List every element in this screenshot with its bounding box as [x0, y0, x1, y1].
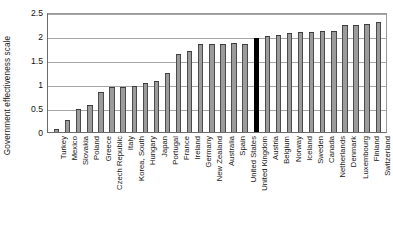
plot-area — [47, 13, 387, 133]
bar-series — [48, 14, 386, 132]
y-axis-tick-label: 2.5 — [31, 8, 43, 18]
bar — [54, 129, 59, 132]
bar-slot — [351, 14, 362, 132]
bar-slot — [295, 14, 306, 132]
x-axis-tick-label: Switzerland — [383, 136, 392, 176]
y-axis-tick-label: 1 — [38, 80, 43, 90]
bar-slot — [195, 14, 206, 132]
bar — [287, 33, 292, 132]
y-axis-tick-label: 1.5 — [31, 56, 43, 66]
x-label-slot: Greece — [95, 134, 106, 242]
x-label-slot: Italy — [117, 134, 128, 242]
bar — [198, 44, 203, 132]
x-label-slot: United Kingdom — [251, 134, 262, 242]
bar-slot — [262, 14, 273, 132]
bar — [76, 109, 81, 132]
y-axis-title: Government effectiveness scale — [0, 0, 16, 190]
bar — [309, 32, 314, 132]
bar — [265, 36, 270, 132]
bar — [165, 73, 170, 132]
x-label-slot: Canada — [318, 134, 329, 242]
x-label-slot: Norway — [285, 134, 296, 242]
bar — [132, 86, 137, 132]
bar-slot — [184, 14, 195, 132]
x-label-slot: Luxembourg — [352, 134, 363, 242]
y-axis-tick-labels: 00.511.522.5 — [16, 0, 46, 145]
bar — [276, 35, 281, 132]
bar-slot — [206, 14, 217, 132]
x-label-slot: Czech Republic — [106, 134, 117, 242]
bar — [187, 51, 192, 132]
bar-slot — [273, 14, 284, 132]
bar — [353, 25, 358, 132]
bar-slot — [140, 14, 151, 132]
bar — [364, 24, 369, 132]
x-label-slot: Belgium — [273, 134, 284, 242]
y-axis-tick-label: 0 — [38, 128, 43, 138]
bar-slot — [129, 14, 140, 132]
bar-slot — [84, 14, 95, 132]
bar-slot — [62, 14, 73, 132]
y-axis-title-text: Government effectiveness scale — [4, 35, 13, 154]
x-label-slot: New Zealand — [206, 134, 217, 242]
bar-slot — [73, 14, 84, 132]
x-label-slot: Austria — [262, 134, 273, 242]
x-label-slot: Sweden — [307, 134, 318, 242]
x-label-slot: Australia — [218, 134, 229, 242]
bar-slot — [151, 14, 162, 132]
x-label-slot: Poland — [84, 134, 95, 242]
bar — [298, 32, 303, 132]
bar — [320, 31, 325, 132]
bar — [176, 54, 181, 132]
bar-slot — [229, 14, 240, 132]
government-effectiveness-bar-chart: Government effectiveness scale 00.511.52… — [0, 0, 393, 243]
x-axis-tick-labels: TurkeyMexicoSlovakiaPolandGreeceCzech Re… — [47, 134, 387, 242]
x-label-slot: Germany — [195, 134, 206, 242]
bar — [220, 44, 225, 132]
bar — [231, 43, 236, 132]
x-label-slot: Finland — [363, 134, 374, 242]
bar-slot — [162, 14, 173, 132]
bar — [254, 38, 259, 132]
x-label-slot: United States — [240, 134, 251, 242]
bar-slot — [95, 14, 106, 132]
bar-slot — [251, 14, 262, 132]
bar — [242, 44, 247, 132]
bar-slot — [306, 14, 317, 132]
x-label-slot: Korea, South — [128, 134, 139, 242]
bar-slot — [373, 14, 384, 132]
x-label-slot: Denmark — [340, 134, 351, 242]
bar-slot — [240, 14, 251, 132]
bar-slot — [217, 14, 228, 132]
bar-slot — [173, 14, 184, 132]
x-label-slot: Switzerland — [374, 134, 385, 242]
bar-slot — [339, 14, 350, 132]
bar-slot — [328, 14, 339, 132]
x-label-slot: Portugal — [162, 134, 173, 242]
x-label-slot: Slovakia — [72, 134, 83, 242]
bar — [331, 31, 336, 132]
y-axis-tick-label: 2 — [38, 32, 43, 42]
x-label-slot: Netherlands — [329, 134, 340, 242]
bar — [376, 22, 381, 132]
bar — [342, 25, 347, 132]
x-label-slot: Hungary — [139, 134, 150, 242]
bar — [109, 87, 114, 132]
x-label-slot: Spain — [229, 134, 240, 242]
bar — [98, 92, 103, 132]
bar — [87, 105, 92, 132]
x-label-slot: Iceland — [296, 134, 307, 242]
x-label-slot: Japan — [151, 134, 162, 242]
bar-slot — [317, 14, 328, 132]
bar — [143, 83, 148, 132]
bar — [120, 87, 125, 132]
bar — [65, 120, 70, 132]
bar — [209, 44, 214, 132]
bar — [154, 81, 159, 132]
y-axis-tick-label: 0.5 — [31, 104, 43, 114]
x-label-slot: Mexico — [61, 134, 72, 242]
bar-slot — [284, 14, 295, 132]
x-label-slot: Turkey — [50, 134, 61, 242]
x-label-slot: France — [173, 134, 184, 242]
bar-slot — [118, 14, 129, 132]
